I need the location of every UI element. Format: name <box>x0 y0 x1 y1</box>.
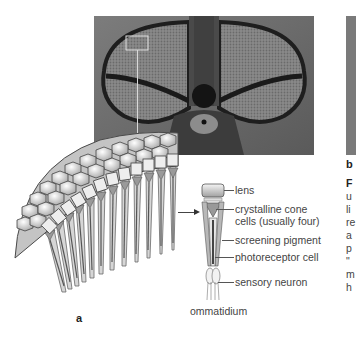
panel-b-label: b <box>346 158 353 170</box>
panel-a-label: a <box>76 312 82 324</box>
caption-line: m <box>346 268 356 281</box>
caption-line: " <box>346 255 356 268</box>
caption-fragment: F u li re a p " m h <box>346 177 356 294</box>
label-photoreceptor-cell: photoreceptor cell <box>235 251 318 263</box>
label-sensory-neuron: sensory neuron <box>235 276 307 288</box>
leader-lens <box>224 190 234 191</box>
zoom-connector-line <box>137 50 138 133</box>
caption-line: u <box>346 190 356 203</box>
caption-line: p <box>346 242 356 255</box>
ommatidium-title: ommatidium <box>190 305 247 317</box>
photo-b-cropped <box>346 16 356 155</box>
caption-line: re <box>346 216 356 229</box>
ommatidia-array-diagram <box>10 128 180 298</box>
caption-line: F <box>346 177 356 190</box>
leader-photoreceptor <box>215 257 234 258</box>
label-crystalline-cone: crystalline cone <box>235 203 307 215</box>
caption-line: a <box>346 229 356 242</box>
label-screening-pigment: screening pigment <box>235 234 321 246</box>
single-ommatidium-diagram <box>198 182 228 302</box>
label-cells-usually-four: cells (usually four) <box>235 215 320 227</box>
caption-line: li <box>346 203 356 216</box>
label-lens: lens <box>235 184 254 196</box>
caption-line: h <box>346 281 356 294</box>
leader-neuron <box>218 282 234 283</box>
leader-cone <box>216 209 234 210</box>
leader-pigment <box>222 240 234 241</box>
